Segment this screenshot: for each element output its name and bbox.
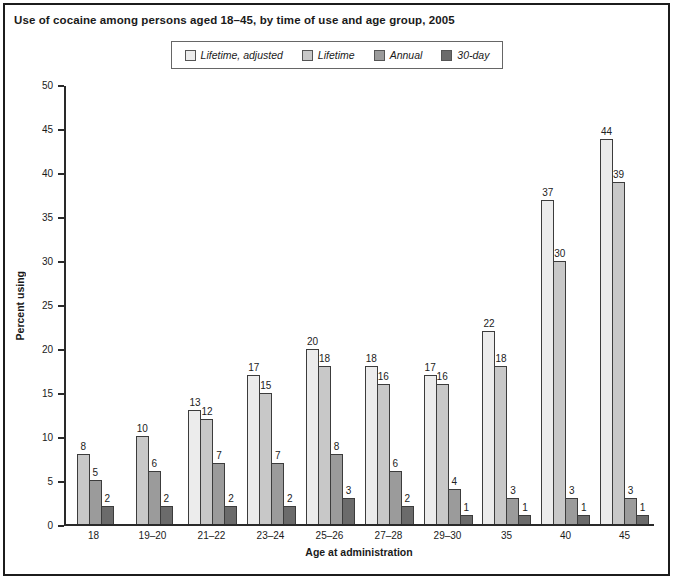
bar-wrap: 2 <box>401 86 414 524</box>
bar-value-label: 6 <box>151 459 157 469</box>
y-tick-label: 10 <box>42 433 53 443</box>
bar-30-day <box>160 506 173 524</box>
bar-value-label: 3 <box>628 486 634 496</box>
y-tick-label: 45 <box>42 125 53 135</box>
y-tick-label: 30 <box>42 257 53 267</box>
y-axis-title: Percent using <box>14 271 26 340</box>
bar-30-day <box>224 506 237 524</box>
x-tick-label-29-30: 29–30 <box>418 530 477 541</box>
bar-value-label: 20 <box>307 337 318 347</box>
bar-value-label: 2 <box>163 494 169 504</box>
bar-wrap: 1 <box>518 86 531 524</box>
legend-item-30-day: 30-day <box>441 49 489 61</box>
bar-value-label: 13 <box>189 398 200 408</box>
bar-value-label: 22 <box>483 319 494 329</box>
y-tick-label: 35 <box>42 213 53 223</box>
bar-group-29-30: 171641 <box>419 86 478 524</box>
bar-group-21-22: 131272 <box>184 86 243 524</box>
bar-group-19-20: 1062 <box>125 86 184 524</box>
y-tick-label: 50 <box>42 81 53 91</box>
x-axis-title-row: Age at administration <box>14 546 660 558</box>
bar-value-label: 1 <box>463 503 469 513</box>
y-axis: Percent using 05101520253035404550 <box>14 86 64 526</box>
bar-30-day <box>518 515 531 524</box>
bar-30-day <box>342 498 355 524</box>
x-tick-label-21-22: 21–22 <box>182 530 241 541</box>
bar-wrap: 2 <box>160 86 173 524</box>
bar-value-label: 39 <box>613 170 624 180</box>
bar-wrap: 2 <box>224 86 237 524</box>
bar-value-label: 37 <box>542 188 553 198</box>
bar-value-label: 12 <box>201 407 212 417</box>
bar-value-label: 3 <box>569 486 575 496</box>
bar-30-day <box>401 506 414 524</box>
bar-group-23-24: 171572 <box>242 86 301 524</box>
legend-label: Lifetime, adjusted <box>201 49 283 61</box>
bar-value-label: 3 <box>346 486 352 496</box>
bar-value-label: 16 <box>378 372 389 382</box>
x-axis-title-gutter <box>14 546 64 558</box>
y-tick-label: 5 <box>47 477 53 487</box>
legend-label: 30-day <box>457 49 489 61</box>
y-tick-label: 20 <box>42 345 53 355</box>
chart-area: Percent using 05101520253035404550 85210… <box>14 86 660 526</box>
x-tick-label-27-28: 27–28 <box>359 530 418 541</box>
bar-30-day <box>283 506 296 524</box>
bar-value-label: 18 <box>495 354 506 364</box>
y-tick-label: 25 <box>42 301 53 311</box>
bar-group-18: 852 <box>66 86 125 524</box>
bar-30-day <box>101 506 114 524</box>
bar-group-45: 443931 <box>595 86 654 524</box>
legend-swatch-30-day <box>441 50 452 61</box>
x-axis-gutter <box>14 530 64 541</box>
bar-30-day <box>460 515 473 524</box>
y-tick-label: 0 <box>47 521 53 531</box>
x-tick-label-45: 45 <box>595 530 654 541</box>
bar-value-label: 6 <box>393 459 399 469</box>
bar-value-label: 10 <box>137 424 148 434</box>
bar-value-label: 2 <box>228 494 234 504</box>
bar-value-label: 1 <box>522 503 528 513</box>
bar-wrap: 1 <box>636 86 649 524</box>
bar-value-label: 18 <box>366 354 377 364</box>
y-tick-label: 40 <box>42 169 53 179</box>
legend: Lifetime, adjusted Lifetime Annual 30-da… <box>171 41 504 69</box>
bar-value-label: 2 <box>405 494 411 504</box>
bar-group-40: 373031 <box>536 86 595 524</box>
bar-value-label: 18 <box>319 354 330 364</box>
legend-swatch-lifetime-adjusted <box>185 50 196 61</box>
x-tick-labels: 1819–2021–2223–2425–2627–2829–30354045 <box>64 530 654 541</box>
bar-value-label: 3 <box>510 486 516 496</box>
bar-value-label: 16 <box>437 372 448 382</box>
bar-group-35: 221831 <box>478 86 537 524</box>
bar-value-label: 4 <box>451 477 457 487</box>
legend-swatch-lifetime <box>302 50 313 61</box>
bar-value-label: 7 <box>216 451 222 461</box>
bar-30-day <box>577 515 590 524</box>
bar-value-label: 44 <box>601 127 612 137</box>
x-tick-label-40: 40 <box>536 530 595 541</box>
bar-wrap: 2 <box>283 86 296 524</box>
x-axis-title: Age at administration <box>64 546 654 558</box>
bar-value-label: 15 <box>260 381 271 391</box>
bar-30-day <box>636 515 649 524</box>
bar-value-label: 1 <box>640 503 646 513</box>
bar-value-label: 30 <box>554 249 565 259</box>
bar-wrap: 3 <box>342 86 355 524</box>
bar-value-label: 8 <box>334 442 340 452</box>
plot-area: 8521062131272171572201883181662171641221… <box>64 86 654 526</box>
bar-wrap: 2 <box>101 86 114 524</box>
chart-title: Use of cocaine among persons aged 18–45,… <box>14 14 660 26</box>
bar-value-label: 17 <box>248 363 259 373</box>
legend-label: Annual <box>390 49 423 61</box>
bar-wrap: 1 <box>577 86 590 524</box>
bar-value-label: 8 <box>81 442 87 452</box>
x-tick-label-18: 18 <box>64 530 123 541</box>
bar-value-label: 2 <box>105 494 111 504</box>
x-tick-label-23-24: 23–24 <box>241 530 300 541</box>
legend-swatch-annual <box>374 50 385 61</box>
x-axis: 1819–2021–2223–2425–2627–2829–30354045 <box>14 530 660 541</box>
x-tick-label-19-20: 19–20 <box>123 530 182 541</box>
bar-group-25-26: 201883 <box>301 86 360 524</box>
y-tick-label: 15 <box>42 389 53 399</box>
